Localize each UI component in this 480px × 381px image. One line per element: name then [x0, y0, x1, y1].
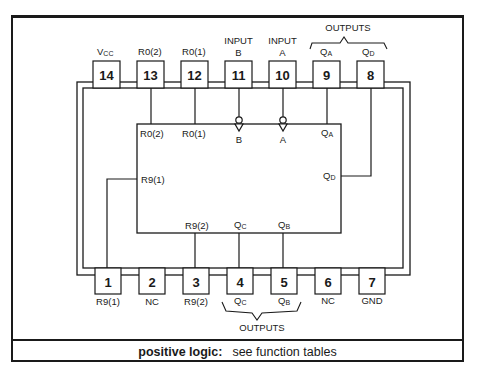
svg-text:R9(1): R9(1) — [96, 296, 120, 307]
label-a: A — [280, 134, 287, 145]
svg-text:2: 2 — [148, 275, 155, 290]
svg-text:A: A — [279, 47, 286, 58]
svg-text:B: B — [235, 47, 241, 58]
svg-text:3: 3 — [192, 275, 199, 290]
label-qb: QB — [278, 219, 290, 230]
svg-text:INPUT: INPUT — [268, 35, 297, 46]
pin-2: 2 NC — [139, 268, 165, 307]
top-pins: 14 VCC 13 R0(2) 12 R0(1) 11 INPUT B 10 I… — [93, 22, 387, 88]
svg-text:QA: QA — [320, 46, 332, 57]
inversion-bubble-a — [280, 117, 286, 123]
clock-triangle-b — [235, 124, 243, 131]
svg-text:5: 5 — [280, 275, 287, 290]
svg-text:1: 1 — [104, 275, 111, 290]
svg-text:11: 11 — [232, 68, 246, 83]
svg-text:GND: GND — [361, 295, 382, 306]
pin-3: 3 R9(2) — [183, 268, 209, 307]
svg-text:QB: QB — [278, 295, 290, 306]
label-r91: R9(1) — [141, 174, 165, 185]
pin-9: 9 QA — [313, 46, 340, 88]
label-r92: R9(2) — [185, 220, 209, 231]
clock-triangle-a — [279, 124, 287, 131]
svg-text:R0(2): R0(2) — [138, 46, 162, 57]
svg-text:9: 9 — [323, 68, 330, 83]
label-r01: R0(1) — [182, 128, 206, 139]
bottom-outputs-label: OUTPUTS — [239, 322, 284, 333]
pin-8: 8 QD — [357, 46, 384, 88]
label-qc: QC — [234, 219, 246, 230]
svg-text:QD: QD — [362, 46, 374, 57]
svg-text:12: 12 — [187, 68, 201, 83]
pin-4: 4 QC — [227, 268, 253, 306]
pin-13: 13 R0(2) — [137, 46, 164, 88]
svg-text:6: 6 — [324, 275, 331, 290]
pin-5: 5 QB — [271, 268, 297, 306]
pin-6: 6 NC — [315, 268, 341, 306]
pin-1: 1 R9(1) — [95, 268, 121, 307]
svg-text:NC: NC — [145, 296, 159, 307]
pin-7: 7 GND — [359, 268, 385, 306]
pin-11: 11 INPUT B — [224, 35, 253, 88]
svg-text:14: 14 — [99, 68, 114, 83]
pinout-diagram: 14 VCC 13 R0(2) 12 R0(1) 11 INPUT B 10 I… — [0, 0, 480, 381]
svg-text:8: 8 — [367, 68, 374, 83]
svg-text:4: 4 — [236, 275, 244, 290]
label-r02: R0(2) — [140, 128, 164, 139]
label-qa: QA — [321, 127, 333, 138]
label-b: B — [236, 134, 242, 145]
label-qd: QD — [323, 170, 335, 181]
bottom-pins: 1 R9(1) 2 NC 3 R9(2) 4 QC 5 QB 6 NC — [95, 268, 385, 333]
svg-text:R0(1): R0(1) — [182, 46, 206, 57]
pin-14: 14 VCC — [93, 46, 120, 88]
svg-text:QC: QC — [234, 295, 246, 306]
pin-10: 10 INPUT A — [268, 35, 297, 88]
svg-text:R9(2): R9(2) — [184, 296, 208, 307]
svg-text:VCC: VCC — [97, 46, 113, 57]
svg-text:INPUT: INPUT — [224, 35, 253, 46]
svg-text:10: 10 — [275, 68, 289, 83]
svg-text:13: 13 — [143, 68, 157, 83]
pin-12: 12 R0(1) — [181, 46, 208, 88]
block-labels: R0(2) R0(1) B A QA R9(1) QD R9(2) QC QB — [140, 127, 335, 231]
top-outputs-label: OUTPUTS — [325, 22, 370, 33]
svg-text:7: 7 — [368, 275, 375, 290]
inversion-bubble-b — [236, 117, 242, 123]
svg-text:NC: NC — [321, 295, 335, 306]
